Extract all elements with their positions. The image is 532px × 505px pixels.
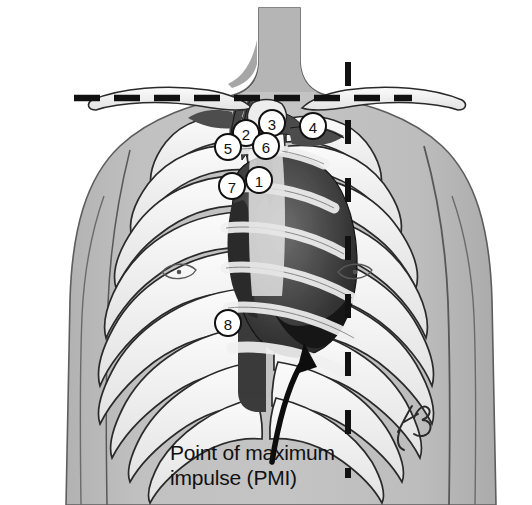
callout-marker-5[interactable]: 5	[215, 134, 241, 160]
chest-anatomy-diagram: 1 2 3 4 5 6 7	[0, 0, 532, 505]
callout-marker-6[interactable]: 6	[253, 133, 279, 159]
callout-label-3: 3	[268, 116, 276, 133]
callout-label-2: 2	[242, 126, 250, 143]
callout-marker-4[interactable]: 4	[300, 113, 326, 139]
callout-marker-3[interactable]: 3	[259, 110, 285, 136]
callout-marker-7[interactable]: 7	[219, 173, 245, 199]
callout-marker-1[interactable]: 1	[246, 167, 272, 193]
callout-label-5: 5	[224, 140, 232, 157]
callout-label-6: 6	[262, 139, 270, 156]
callout-marker-8[interactable]: 8	[215, 310, 241, 336]
callout-label-7: 7	[228, 179, 236, 196]
callout-label-8: 8	[224, 316, 232, 333]
callout-label-1: 1	[255, 173, 263, 190]
callout-label-4: 4	[309, 119, 317, 136]
medical-illustration-figure: 1 2 3 4 5 6 7	[0, 0, 532, 505]
